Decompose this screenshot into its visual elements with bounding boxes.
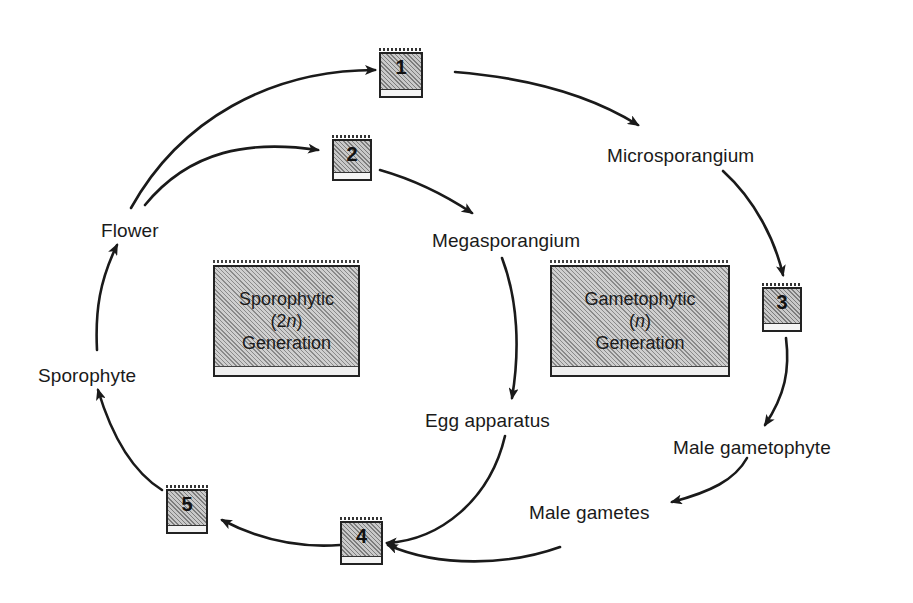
ploidy-var: n [635, 311, 645, 331]
numbered-box-5: 5 [166, 489, 208, 534]
box-3-label: 3 [776, 291, 787, 314]
sporophytic-generation-box: Sporophytic (2n) Generation [213, 265, 360, 377]
numbered-box-3: 3 [762, 287, 802, 332]
arrow-male-gametophyte-to-male-gametes [672, 458, 747, 502]
arrow-5-to-sporophyte [98, 390, 162, 490]
arrow-microsporangium-to-3 [723, 171, 783, 275]
node-megasporangium: Megasporangium [432, 230, 580, 252]
sporophytic-title: Sporophytic [239, 288, 334, 310]
ploidy-close: ) [645, 311, 651, 331]
arrow-3-to-male-gametophyte [765, 338, 787, 425]
arrow-1-to-microsporangium [455, 72, 638, 125]
arrow-4-to-5 [222, 520, 340, 546]
numbered-box-2: 2 [332, 139, 372, 181]
node-male-gametophyte: Male gametophyte [673, 437, 831, 459]
box-1-label: 1 [395, 56, 406, 79]
gametophytic-generation-box: Gametophytic (n) Generation [550, 265, 730, 377]
ploidy-var: n [287, 311, 297, 331]
node-sporophyte: Sporophyte [38, 365, 136, 387]
arrow-2-to-megasporangium [380, 170, 472, 213]
sporophytic-generation-word: Generation [242, 332, 331, 354]
numbered-box-1: 1 [379, 52, 423, 98]
gametophytic-title: Gametophytic [584, 288, 695, 310]
node-male-gametes: Male gametes [529, 502, 650, 524]
arrow-egg-apparatus-to-4 [387, 436, 505, 543]
box-2-label: 2 [346, 143, 357, 166]
sporophytic-ploidy: (2n) [270, 310, 302, 332]
arrow-flower-to-2 [145, 147, 318, 205]
arrow-megasporangium-to-egg-apparatus [502, 258, 517, 398]
arrow-sporophyte-to-flower [97, 245, 117, 350]
node-microsporangium: Microsporangium [607, 145, 754, 167]
box-4-label: 4 [356, 525, 367, 548]
ploidy-open: (2 [270, 311, 286, 331]
life-cycle-diagram: Flower Sporophyte Microsporangium Megasp… [0, 0, 913, 603]
arrow-male-gametes-to-4 [388, 545, 560, 561]
box-5-label: 5 [181, 493, 192, 516]
gametophytic-ploidy: (n) [629, 310, 651, 332]
node-flower: Flower [101, 220, 159, 242]
ploidy-close: ) [297, 311, 303, 331]
numbered-box-4: 4 [340, 521, 383, 565]
node-egg-apparatus: Egg apparatus [425, 410, 550, 432]
gametophytic-generation-word: Generation [595, 332, 684, 354]
